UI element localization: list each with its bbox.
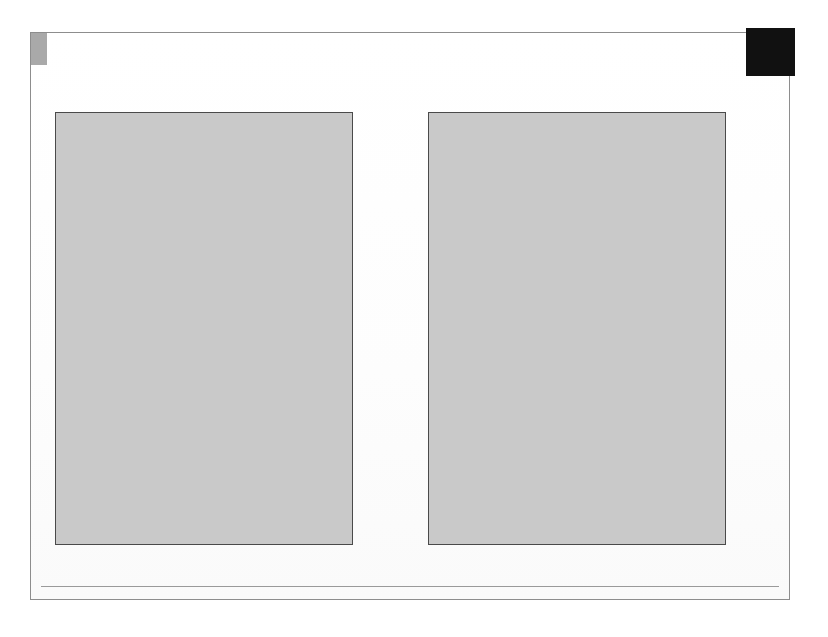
corner-tab-decoration [31, 33, 47, 65]
footer-divider [41, 586, 779, 587]
chart-panel-united-states [55, 112, 353, 545]
plot-area-united-states [56, 163, 352, 544]
plot-area-western-europe [429, 163, 725, 544]
figure-number-badge [746, 28, 795, 76]
chart-panel-western-europe [428, 112, 726, 545]
chart-page [0, 0, 828, 637]
